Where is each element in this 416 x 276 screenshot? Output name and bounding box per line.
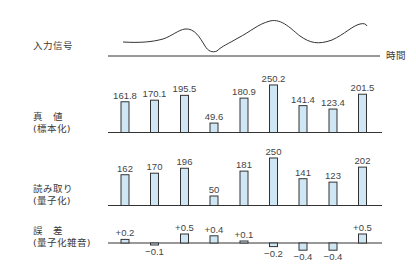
bar — [359, 234, 367, 243]
bar-value-label: +0.5 — [175, 222, 194, 233]
bar-value-label: 161.8 — [113, 90, 137, 101]
bar — [270, 243, 278, 247]
bar — [240, 241, 248, 243]
bar — [121, 102, 129, 133]
bar — [299, 179, 307, 206]
bar — [151, 243, 159, 245]
bar-value-label: 180.9 — [232, 86, 256, 97]
bar-value-label: 123 — [325, 170, 341, 181]
bar-value-label: 181 — [236, 159, 252, 170]
bar — [121, 175, 129, 206]
bar — [181, 234, 189, 243]
bar — [210, 196, 218, 206]
bar — [181, 95, 189, 132]
bar — [240, 171, 248, 205]
bar-value-label: +0.5 — [353, 222, 372, 233]
bar-value-label: 141 — [295, 167, 311, 178]
bar — [210, 236, 218, 243]
bar-value-label: 170 — [147, 161, 163, 172]
bar — [121, 239, 129, 243]
quantization-diagram: 時間 161.8170.1195.549.6180.9250.2141.4123… — [0, 0, 416, 276]
bar-value-label: 250.2 — [262, 73, 286, 84]
bar-value-label: −0.4 — [294, 251, 313, 262]
bar — [270, 85, 278, 133]
bar-value-label: +0.2 — [116, 227, 135, 238]
bar — [359, 94, 367, 132]
bar — [151, 173, 159, 205]
bar-value-label: −0.4 — [324, 251, 343, 262]
bar-value-label: −0.2 — [264, 248, 283, 259]
bar-value-label: 162 — [117, 163, 133, 174]
bar-value-label: +0.4 — [205, 224, 224, 235]
bar-value-label: 123.4 — [321, 97, 345, 108]
bar — [299, 243, 307, 250]
bar-value-label: 202 — [355, 155, 371, 166]
bar-value-label: 196 — [177, 156, 193, 167]
bar-value-label: 49.6 — [205, 111, 224, 122]
bar — [359, 167, 367, 205]
error-bars: +0.2−0.1+0.5+0.4+0.1−0.2−0.4−0.4+0.5 — [116, 222, 372, 262]
bar-value-label: 170.1 — [143, 88, 167, 99]
bar — [329, 182, 337, 205]
bar — [240, 98, 248, 132]
bar-value-label: −0.1 — [145, 246, 164, 257]
bar — [181, 168, 189, 205]
bar-value-label: +0.1 — [235, 229, 254, 240]
bar — [270, 158, 278, 206]
true-value-bars: 161.8170.1195.549.6180.9250.2141.4123.42… — [113, 73, 374, 133]
bar — [329, 109, 337, 132]
bar — [299, 106, 307, 133]
bar — [151, 100, 159, 132]
reading-bars: 16217019650181250141123202 — [117, 146, 370, 206]
bar-value-label: 201.5 — [351, 82, 375, 93]
input-waveform — [123, 21, 367, 52]
bar-value-label: 141.4 — [291, 94, 315, 105]
bar-value-label: 250 — [266, 146, 282, 157]
bar-value-label: 195.5 — [173, 83, 197, 94]
bar — [329, 243, 337, 250]
bar-value-label: 50 — [209, 184, 220, 195]
bar — [210, 123, 218, 132]
time-axis-label: 時間 — [386, 50, 406, 61]
